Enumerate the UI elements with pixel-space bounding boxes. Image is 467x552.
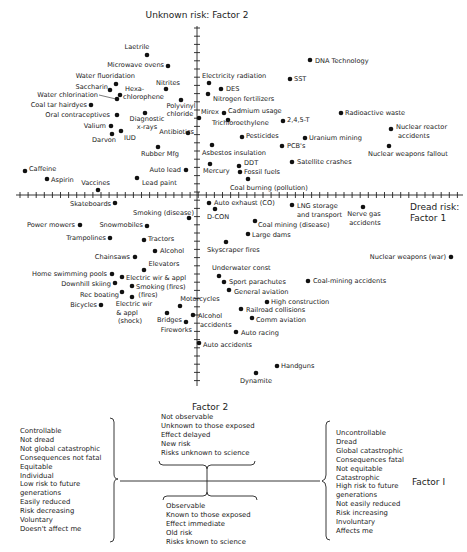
legend-top-item: Unknown to those exposed [161, 422, 255, 431]
data-point-dot [275, 364, 280, 369]
data-point-dot [120, 290, 125, 295]
data-point-label: Water chlorination [37, 91, 98, 99]
legend-right-item: Affects me [336, 527, 404, 536]
data-point-label: Antibiotics [159, 128, 194, 136]
data-point-dot [246, 177, 251, 182]
data-point-dot [239, 307, 244, 312]
data-point-dot [89, 103, 94, 108]
data-point-label: Power mowers [27, 221, 76, 229]
data-point-label: Microwave ovens [107, 61, 164, 69]
data-point-dot [303, 136, 308, 141]
top-brace [159, 461, 255, 469]
data-point-dot [145, 224, 150, 229]
data-point-label: chloride [167, 110, 193, 118]
risk-factor-scatter-plot: Unknown risk: Factor 2 Dread risk: Facto… [0, 0, 467, 400]
data-point-dot [142, 268, 147, 273]
data-point-label: Nitrogen fertilizers [213, 95, 275, 103]
legend-bottom-box: Observable Known to those exposed Effect… [166, 502, 251, 547]
data-point-label: Nuclear weapons fallout [368, 150, 448, 158]
data-point-dot [210, 143, 215, 148]
legend-left-item: generations [20, 489, 101, 498]
data-point-dot [280, 144, 285, 149]
data-point-label: Skateboards [70, 200, 112, 208]
data-point-label: (fires) [166, 283, 185, 291]
data-point-label: Alcohol [198, 312, 222, 320]
data-point-label: Auto racing [241, 329, 279, 337]
legend-top-item: Effect delayed [161, 431, 255, 440]
data-point-label: Auto exhaust (CO) [214, 199, 275, 207]
data-point-label: General aviation [234, 288, 289, 296]
data-point-label: Water fluoridation [76, 72, 135, 80]
data-point-dot [222, 111, 227, 116]
data-point-dot [290, 203, 295, 208]
data-point-dot [238, 170, 243, 175]
data-point-label: accidents [349, 219, 381, 227]
data-point-dot [361, 205, 366, 210]
data-point-dot [281, 119, 286, 124]
data-point-label: PCB's [287, 142, 306, 150]
data-point-dot [288, 77, 293, 82]
legend-left-item: Not global catastrophic [20, 445, 101, 454]
data-point-label: Vaccines [81, 179, 110, 187]
data-point-dot [191, 313, 196, 318]
data-point-dot [207, 201, 212, 206]
data-point-label: Nuclear weapons (war) [370, 253, 446, 261]
data-point-label: LNG storage [297, 202, 338, 210]
data-point-label: Radioactive waste [345, 109, 405, 117]
data-point-dot [115, 113, 120, 118]
data-point-label: Nitrites [156, 79, 181, 87]
legend-right-item: Catastrophic [336, 474, 404, 483]
data-point-dot [133, 255, 138, 260]
data-point-dot [219, 87, 224, 92]
data-point-label: Lead paint [142, 179, 177, 187]
x-axis-title-line2: Factor 1 [410, 213, 446, 223]
data-point-label: 2,4,5-T [287, 116, 311, 124]
data-point-dot [208, 162, 213, 167]
data-point-label: & appl [116, 309, 138, 317]
legend-top-item: New risk [161, 440, 255, 449]
data-point-label: Handguns [281, 362, 315, 370]
legend-right-item: Risk increasing [336, 509, 404, 518]
x-axis-title-line1: Dread risk: [410, 202, 459, 212]
data-point-dot [178, 304, 183, 309]
data-point-label: Auto accidents [203, 341, 253, 349]
data-point-dot [206, 92, 211, 97]
legend-right-item: Dread [336, 438, 404, 447]
data-point-label: Coal tar hairdyes [31, 101, 88, 109]
legend-right-item: generations [336, 491, 404, 500]
data-point-label: Laetrile [125, 43, 150, 51]
legend-bottom-item: Observable [166, 502, 251, 511]
data-point-dot [222, 280, 227, 285]
data-point-dot [109, 124, 114, 129]
legend-right-item: Involuntary [336, 518, 404, 527]
data-point-label: Dynamite [240, 377, 272, 385]
data-point-label: Pesticides [246, 132, 279, 140]
data-point-dot [164, 87, 169, 92]
data-point-dot [114, 82, 119, 87]
data-point-dot [227, 288, 232, 293]
data-point-label: Alcohol [160, 247, 184, 255]
data-point-dot [113, 281, 118, 286]
data-point-label: Electricity radiation [202, 72, 266, 80]
data-point-label: Snowmobiles [99, 221, 143, 229]
data-point-label: Railroad collisions [246, 306, 306, 314]
legend-left-item: Voluntary [20, 516, 101, 525]
data-point-dot [237, 164, 242, 169]
data-point-dot [213, 207, 218, 212]
legend-left-item: Low risk to future [20, 480, 101, 489]
data-point-dot [265, 300, 270, 305]
data-point-label: Valium [84, 122, 106, 130]
legend-left-item: Equitable [20, 463, 101, 472]
data-point-dot [339, 111, 344, 116]
data-point-dot [166, 64, 171, 69]
data-point-dot [142, 238, 147, 243]
data-point-label: Polyvinyl [166, 102, 195, 110]
legend-bottom-item: Old risk [166, 529, 251, 538]
data-point-dot [250, 316, 255, 321]
data-point-label: Trichloroethylene [211, 119, 269, 127]
data-point-label: DES [226, 85, 239, 93]
legend-right-item: Global catastrophic [336, 447, 404, 456]
data-point-dot [108, 88, 113, 93]
data-point-dot [135, 176, 140, 181]
legend-bottom-item: Risks known to science [166, 538, 251, 547]
